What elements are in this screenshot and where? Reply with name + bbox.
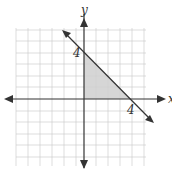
line-lower-arrow-icon <box>145 115 154 123</box>
x-axis-label: x <box>168 92 172 106</box>
coordinate-plane: y x 4 4 <box>0 0 172 173</box>
y-axis-up-arrow-icon <box>80 18 88 27</box>
y-tick-label-4: 4 <box>72 46 81 60</box>
y-axis-label: y <box>80 3 88 17</box>
x-axis-left-arrow-icon <box>4 95 13 103</box>
y-axis-down-arrow-icon <box>80 160 88 169</box>
x-tick-label-4: 4 <box>126 103 135 117</box>
x-axis-right-arrow-icon <box>157 95 166 103</box>
line-upper-arrow-icon <box>62 30 71 38</box>
